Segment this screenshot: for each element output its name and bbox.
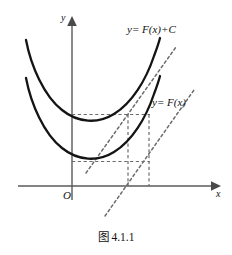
curve-label-upper: y= F(x)+C [127, 24, 176, 35]
tangent-line-upper-curve [86, 47, 176, 173]
origin-label: O [63, 190, 71, 201]
antiderivative-family-figure [0, 0, 232, 255]
y-axis [67, 16, 77, 200]
y-axis-label: y [61, 13, 65, 23]
curve-label-lower: y= F(x) [152, 97, 186, 108]
figure-container: y= F(x)+C y= F(x) O y x 图 4.1.1 [0, 0, 232, 255]
figure-caption: 图 4.1.1 [0, 228, 232, 244]
curve-upper-fx-plus-c [26, 38, 160, 121]
y-axis-arrowhead [67, 16, 77, 26]
x-axis [18, 181, 221, 191]
x-axis-label: x [216, 189, 220, 199]
tangent-line-lower-curve [105, 90, 194, 216]
